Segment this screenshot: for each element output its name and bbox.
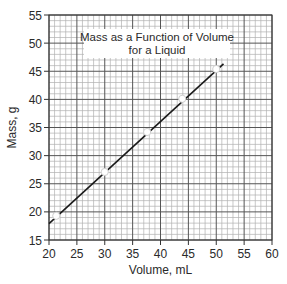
data-point [53, 212, 60, 219]
x-tick-label: 30 [98, 247, 112, 261]
data-point [179, 95, 186, 102]
y-tick-label: 45 [29, 65, 43, 79]
y-axis-label: Mass, g [5, 106, 19, 148]
y-tick-label: 55 [29, 9, 43, 23]
x-tick-label: 55 [237, 247, 251, 261]
x-axis-label: Volume, mL [129, 263, 193, 277]
data-point [101, 168, 108, 175]
data-point [144, 128, 151, 135]
y-tick-label: 40 [29, 93, 43, 107]
x-axis-ticks: 202530354045505560 [42, 240, 279, 261]
y-tick-label: 15 [29, 234, 43, 248]
chart-title: Mass as a Function of Volume for a Liqui… [80, 29, 234, 58]
chart-canvas: 152025303540455055 202530354045505560 Ma… [0, 0, 287, 284]
chart: 152025303540455055 202530354045505560 Ma… [0, 0, 287, 284]
y-tick-label: 30 [29, 149, 43, 163]
x-tick-label: 50 [210, 247, 224, 261]
x-tick-label: 60 [265, 247, 279, 261]
x-tick-label: 35 [126, 247, 140, 261]
data-point [213, 65, 220, 72]
y-tick-label: 20 [29, 205, 43, 219]
x-tick-label: 25 [70, 247, 84, 261]
y-tick-label: 25 [29, 177, 43, 191]
y-tick-label: 50 [29, 37, 43, 51]
y-tick-label: 35 [29, 121, 43, 135]
x-tick-label: 20 [42, 247, 56, 261]
x-tick-label: 40 [154, 247, 168, 261]
x-tick-label: 45 [182, 247, 196, 261]
title-line-1: Mass as a Function of Volume [80, 31, 234, 43]
title-line-2: for a Liquid [129, 44, 186, 56]
y-axis-ticks: 152025303540455055 [29, 9, 49, 248]
